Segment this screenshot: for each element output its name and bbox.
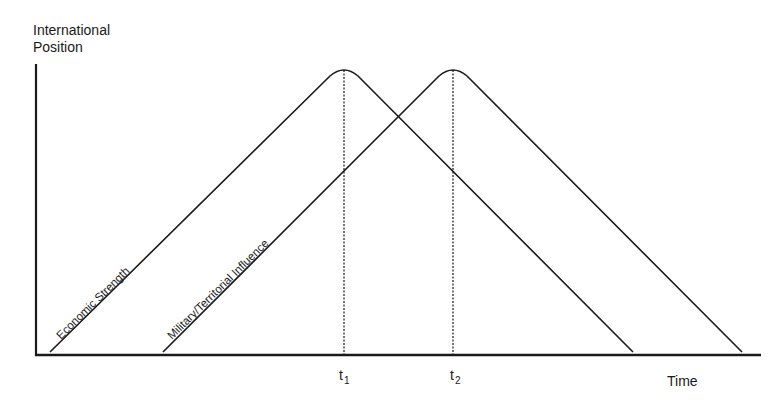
y-axis-label: International Position [33, 22, 110, 56]
t2-label: t2 [450, 367, 460, 385]
t1-label-subscript: 1 [344, 375, 350, 386]
military-influence-label: Military/Territorial Influence [165, 237, 271, 342]
diagram-canvas: Economic Strength Military/Territorial I… [0, 0, 784, 406]
t1-label-main: t [339, 367, 343, 383]
t2-label-main: t [450, 367, 454, 383]
economic-strength-label: Economic Strength [54, 265, 132, 342]
y-axis-label-line1: International [33, 22, 110, 39]
y-axis-label-line2: Position [33, 39, 110, 56]
economic-strength-curve [50, 70, 633, 352]
x-axis-label: Time [667, 373, 698, 390]
t1-label: t1 [339, 367, 349, 385]
t2-label-subscript: 2 [455, 375, 461, 386]
